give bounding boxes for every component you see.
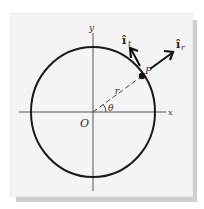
angle-arc — [103, 104, 106, 112]
origin-label: O — [80, 117, 89, 130]
angle-label: θ — [108, 103, 114, 113]
x-axis-label: x — [168, 108, 173, 117]
y-axis-label: y — [88, 23, 95, 33]
tangential-unit-subscript: t — [128, 39, 132, 48]
point-label: P — [144, 65, 152, 76]
polar-diagram: y x O P r θ î r î t — [0, 0, 204, 209]
radial-vector-arrow — [150, 53, 172, 69]
radial-unit-subscript: r — [181, 43, 186, 52]
radius-label: r — [115, 86, 120, 96]
tangential-unit-label: î — [122, 34, 127, 47]
